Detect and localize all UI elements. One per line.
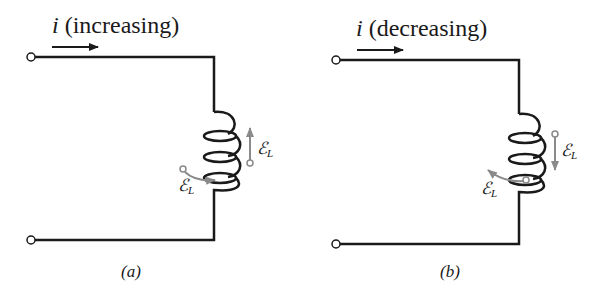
current-symbol: i: [356, 15, 363, 41]
panel-b-circuit: [332, 50, 558, 248]
emf-label-vertical-a: ℰL: [257, 138, 273, 159]
terminal-top-icon: [332, 56, 340, 64]
emf-label-curved-a: ℰL: [178, 175, 194, 196]
inductor-coil-icon: [340, 114, 545, 244]
current-label-b: i (decreasing): [356, 15, 487, 42]
inductor-diagram: [0, 0, 605, 295]
emf-subscript: L: [188, 184, 194, 196]
emf-label-curved-b: ℰL: [481, 178, 497, 199]
emf-subscript: L: [267, 147, 273, 159]
emf-subscript: L: [491, 187, 497, 199]
current-state: (increasing): [65, 12, 180, 38]
emf-symbol: ℰ: [561, 141, 571, 160]
caption-a: (a): [121, 262, 141, 282]
top-wire: [35, 57, 214, 112]
current-symbol: i: [52, 12, 59, 38]
emf-tail-icon: [552, 131, 558, 137]
emf-symbol: ℰ: [257, 139, 267, 158]
terminal-top-icon: [27, 53, 35, 61]
emf-symbol: ℰ: [178, 176, 188, 195]
emf-curved-tail-icon: [523, 177, 529, 183]
panel-a-circuit: [27, 47, 253, 244]
emf-label-vertical-b: ℰL: [561, 140, 577, 161]
emf-symbol: ℰ: [481, 179, 491, 198]
emf-curved-tail-icon: [180, 166, 186, 172]
emf-tail-icon: [247, 160, 253, 166]
current-label-a: i (increasing): [52, 12, 179, 39]
current-state: (decreasing): [369, 15, 488, 41]
terminal-bottom-icon: [332, 240, 340, 248]
caption-b: (b): [440, 262, 460, 282]
top-wire: [340, 60, 519, 114]
emf-subscript: L: [571, 149, 577, 161]
terminal-bottom-icon: [27, 236, 35, 244]
inductor-coil-icon: [35, 112, 240, 240]
